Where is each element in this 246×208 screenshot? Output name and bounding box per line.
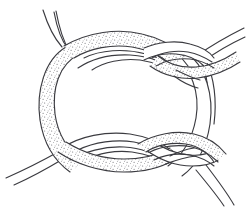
knot-diagram-svg bbox=[0, 0, 246, 208]
end-bottom-right bbox=[196, 165, 234, 206]
end-top-left-a bbox=[43, 10, 68, 49]
knot-figure: Interwoven two-strand knot diagram Line … bbox=[0, 0, 246, 208]
